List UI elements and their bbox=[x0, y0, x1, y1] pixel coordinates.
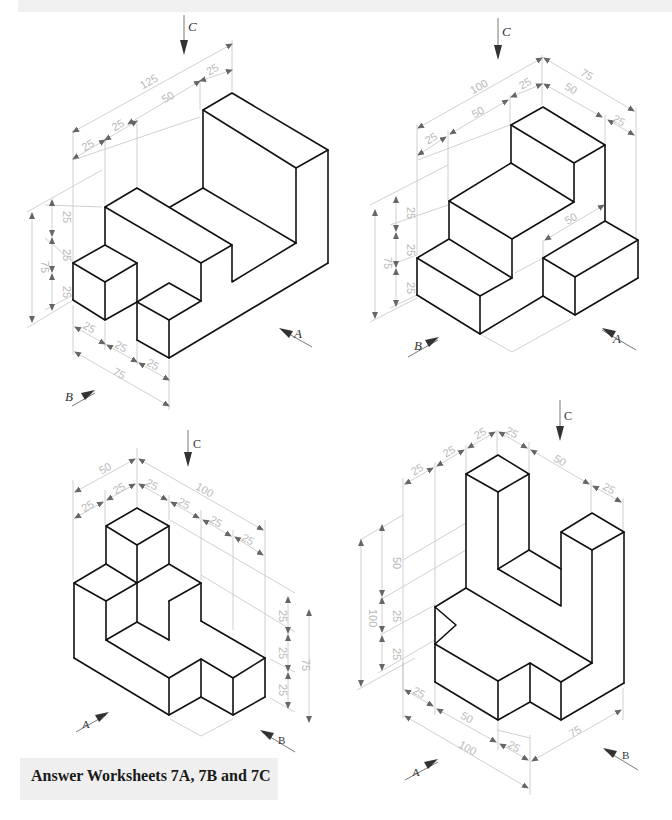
dim-label: 25 bbox=[405, 207, 417, 219]
view-label-c: C bbox=[502, 24, 511, 39]
dim-label: 25 bbox=[111, 480, 128, 497]
arrow-down-icon bbox=[494, 45, 502, 60]
dim-label: 25 bbox=[472, 425, 489, 442]
dim-label: 25 bbox=[277, 610, 289, 622]
dimension-line bbox=[512, 318, 573, 352]
dim-label: 125 bbox=[138, 72, 160, 92]
dim-label: 25 bbox=[601, 480, 618, 497]
dim-label: 50 bbox=[470, 104, 487, 121]
dim-label: 25 bbox=[391, 648, 403, 660]
dim-label: 25 bbox=[61, 286, 73, 298]
dim-label: 25 bbox=[405, 244, 417, 256]
arrow-down-icon bbox=[184, 452, 192, 467]
dim-label: 25 bbox=[611, 112, 628, 129]
dim-label: 100 bbox=[367, 609, 379, 627]
dim-label: 25 bbox=[176, 495, 193, 512]
view-label-b: B bbox=[622, 749, 629, 761]
view-label-b: B bbox=[414, 338, 422, 353]
dim-label: 75 bbox=[111, 365, 128, 382]
dim-label: 50 bbox=[562, 210, 579, 227]
dim-label: 25 bbox=[81, 319, 98, 336]
dim-label: 75 bbox=[567, 723, 584, 740]
dim-label: 25 bbox=[79, 498, 96, 515]
view-label-c: C bbox=[188, 19, 197, 34]
dim-label: 25 bbox=[504, 424, 521, 441]
figure-4-solid-edges bbox=[435, 455, 624, 720]
dim-label: 25 bbox=[61, 249, 73, 261]
view-label-c: C bbox=[564, 409, 572, 423]
arrow-right-icon bbox=[425, 337, 439, 347]
arrow-right-icon bbox=[424, 759, 438, 769]
dim-label: 25 bbox=[277, 647, 289, 659]
dim-label: 25 bbox=[277, 684, 289, 696]
dim-label: 25 bbox=[110, 117, 127, 134]
view-arrow-b: B bbox=[260, 730, 295, 752]
dim-label: 75 bbox=[300, 659, 312, 671]
dim-label: 25 bbox=[145, 356, 162, 373]
view-arrow-b: B bbox=[65, 389, 95, 406]
arrow-left-icon bbox=[603, 748, 617, 758]
view-arrow-b: B bbox=[408, 337, 439, 357]
dim-label: 25 bbox=[423, 130, 440, 147]
figure-1-solid-edges bbox=[73, 93, 328, 358]
dim-label: 100 bbox=[457, 738, 479, 758]
caption-title: Answer Worksheets 7A, 7B and 7C bbox=[31, 767, 270, 785]
view-label-b: B bbox=[278, 734, 285, 746]
dimension-line bbox=[201, 719, 233, 736]
dim-label: 25 bbox=[405, 282, 417, 294]
dimension-line bbox=[170, 719, 201, 736]
figure-1-isometric-drawing: C 125 25 50 25 25 25 25 25 75 bbox=[0, 0, 340, 410]
dim-label: 25 bbox=[506, 738, 523, 755]
arrow-left-icon bbox=[260, 730, 274, 740]
view-arrow-c: C bbox=[184, 430, 201, 467]
dim-label: 75 bbox=[382, 257, 394, 269]
figure-3-solid-edges bbox=[74, 508, 265, 715]
dim-label: 50 bbox=[563, 80, 580, 97]
dim-label: 25 bbox=[391, 610, 403, 622]
view-arrow-c: C bbox=[556, 400, 572, 441]
dim-label: 25 bbox=[144, 476, 161, 493]
dim-label: 75 bbox=[39, 261, 51, 273]
figure-2-isometric-drawing: C 100 25 50 25 75 50 25 25 25 25 75 bbox=[340, 0, 672, 410]
dim-label: 50 bbox=[160, 89, 177, 106]
dim-label: 25 bbox=[411, 684, 428, 701]
dim-label: 25 bbox=[113, 338, 130, 355]
dim-label: 50 bbox=[391, 557, 403, 569]
view-arrow-c: C bbox=[180, 15, 197, 55]
arrow-down-icon bbox=[556, 426, 564, 441]
dimension-lines-height bbox=[357, 515, 466, 690]
dim-label: 100 bbox=[194, 480, 216, 500]
dim-label: 25 bbox=[61, 211, 73, 223]
view-arrow-a: A bbox=[405, 759, 438, 780]
dim-label: 50 bbox=[459, 709, 476, 726]
dim-label: 100 bbox=[468, 77, 490, 97]
dim-label: 50 bbox=[97, 460, 114, 477]
view-arrow-a: A bbox=[602, 328, 636, 350]
arrow-right-icon bbox=[81, 390, 95, 400]
view-label-a: A bbox=[293, 326, 302, 341]
view-label-a: A bbox=[412, 766, 420, 778]
dimension-inner bbox=[515, 205, 604, 273]
dim-label: 25 bbox=[80, 137, 97, 154]
dimension-line bbox=[480, 334, 512, 352]
view-arrow-b: B bbox=[603, 748, 638, 770]
view-label-a: A bbox=[612, 331, 621, 346]
dim-label: 25 bbox=[208, 513, 225, 530]
view-arrow-a: A bbox=[279, 326, 312, 347]
view-arrow-c: C bbox=[494, 18, 511, 60]
view-label-a: A bbox=[82, 718, 90, 730]
dim-label: 25 bbox=[409, 461, 426, 478]
view-label-b: B bbox=[65, 389, 73, 404]
view-label-c: C bbox=[193, 437, 201, 451]
arrow-left-icon bbox=[279, 328, 293, 338]
arrow-down-icon bbox=[180, 40, 188, 55]
dim-label: 25 bbox=[441, 443, 458, 460]
figure-3-isometric-drawing: C 50 25 25 100 25 25 25 25 25 25 25 75 bbox=[0, 410, 340, 760]
dim-label: 25 bbox=[240, 531, 257, 548]
view-arrow-a: A bbox=[76, 712, 109, 732]
dim-label: 50 bbox=[552, 452, 569, 469]
figure-4-isometric-drawing: C 25 25 25 25 50 25 50 25 25 100 bbox=[340, 400, 672, 820]
